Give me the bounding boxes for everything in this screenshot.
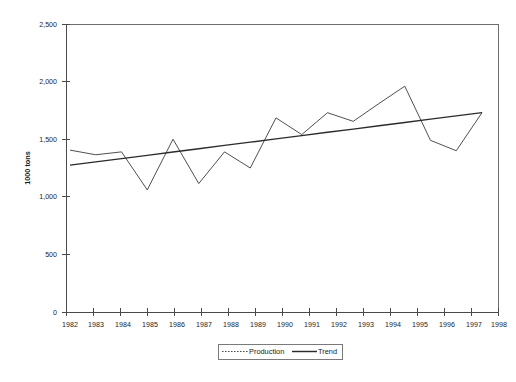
legend-label-production: Production (249, 347, 284, 356)
x-tick-label-1985: 1985 (142, 321, 158, 329)
x-tick-label-1997: 1997 (466, 321, 482, 329)
x-tick-label-1993: 1993 (358, 321, 374, 329)
x-tick-label-1989: 1989 (250, 321, 266, 329)
x-tick-label-1984: 1984 (115, 321, 131, 329)
plot-area-background (66, 24, 498, 312)
x-tick-label-1994: 1994 (385, 321, 401, 329)
y-axis-title: 1000 tons (23, 151, 32, 185)
x-tick-label-1983: 1983 (88, 321, 104, 329)
chart-figure: 0 500 1,000 1,500 2,000 2,500 1000 tons (0, 0, 516, 382)
y-tick-label-0: 0 (53, 309, 57, 317)
line-chart-canvas: 0 500 1,000 1,500 2,000 2,500 1000 tons (0, 0, 516, 382)
x-tick-label-1991: 1991 (304, 321, 320, 329)
legend-label-trend: Trend (318, 347, 337, 356)
x-tick-label-1990: 1990 (277, 321, 293, 329)
y-tick-label-1000: 1,000 (39, 193, 57, 201)
y-tick-label-2000: 2,000 (39, 78, 57, 86)
y-tick-label-2500: 2,500 (39, 21, 57, 29)
x-tick-label-1986: 1986 (169, 321, 185, 329)
x-tick-label-1987: 1987 (196, 321, 212, 329)
x-axis-tick-labels: 1982 1983 1984 1985 1986 1987 1988 1989 … (62, 321, 507, 329)
y-axis-tick-labels: 0 500 1,000 1,500 2,000 2,500 (39, 21, 57, 317)
x-tick-label-1998: 1998 (491, 321, 507, 329)
x-tick-label-1996: 1996 (439, 321, 455, 329)
chart-legend: Production Trend (218, 344, 342, 359)
y-tick-label-1500: 1,500 (39, 136, 57, 144)
x-tick-label-1982: 1982 (62, 321, 78, 329)
x-tick-label-1992: 1992 (331, 321, 347, 329)
y-tick-label-500: 500 (45, 251, 57, 259)
x-tick-label-1988: 1988 (223, 321, 239, 329)
x-tick-label-1995: 1995 (412, 321, 428, 329)
